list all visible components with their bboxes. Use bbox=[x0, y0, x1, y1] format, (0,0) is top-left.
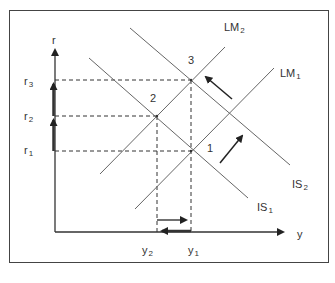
lm2-label: LM2 bbox=[224, 22, 245, 35]
r1-sub: 1 bbox=[29, 149, 33, 158]
point-2-marker bbox=[156, 115, 158, 117]
r-axis-label: r bbox=[52, 35, 56, 46]
point-3-label: 3 bbox=[188, 55, 194, 66]
lm2-base: LM bbox=[224, 21, 239, 33]
r3-sub: 3 bbox=[29, 80, 33, 89]
point-1-marker bbox=[190, 150, 192, 152]
r3-base: r bbox=[24, 75, 28, 87]
y2-sub: 2 bbox=[149, 249, 153, 258]
point-1-label: 1 bbox=[207, 143, 213, 154]
lm1-curve bbox=[135, 68, 274, 209]
r1-label: r1 bbox=[24, 145, 33, 158]
point-3-marker bbox=[190, 79, 192, 81]
lm-shift-arrow bbox=[206, 77, 232, 99]
lm1-sub: 1 bbox=[296, 72, 300, 81]
y2-label: y2 bbox=[142, 245, 153, 258]
is2-base: IS bbox=[292, 178, 302, 190]
r1-base: r bbox=[24, 144, 28, 156]
is-shift-arrow bbox=[220, 136, 242, 163]
is2-label: IS2 bbox=[292, 179, 308, 192]
diagram-frame bbox=[10, 11, 329, 263]
r2-base: r bbox=[24, 110, 28, 122]
lm1-label: LM1 bbox=[280, 68, 301, 81]
y1-label: y1 bbox=[188, 245, 199, 258]
lm2-sub: 2 bbox=[240, 26, 244, 35]
r2-label: r2 bbox=[24, 111, 33, 124]
is1-curve bbox=[89, 58, 248, 198]
is-lm-diagram bbox=[0, 0, 335, 283]
y1-base: y bbox=[188, 244, 194, 256]
lm1-base: LM bbox=[280, 67, 295, 79]
is1-label: IS1 bbox=[257, 202, 273, 215]
point-2-label: 2 bbox=[150, 93, 156, 104]
r2-sub: 2 bbox=[29, 115, 33, 124]
lm2-curve bbox=[100, 47, 225, 174]
is1-sub: 1 bbox=[268, 206, 272, 215]
r3-label: r3 bbox=[24, 76, 33, 89]
y1-sub: 1 bbox=[195, 249, 199, 258]
is1-base: IS bbox=[257, 201, 267, 213]
y2-base: y bbox=[142, 244, 148, 256]
y-axis-label: y bbox=[297, 229, 303, 240]
is2-sub: 2 bbox=[303, 183, 307, 192]
